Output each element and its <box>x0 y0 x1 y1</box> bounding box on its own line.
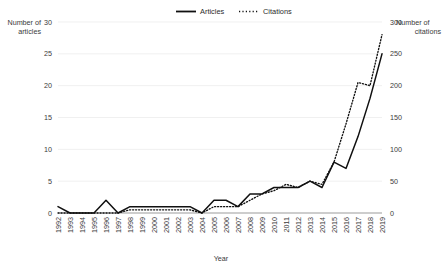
svg-text:2002: 2002 <box>174 217 183 233</box>
svg-text:1992: 1992 <box>54 217 63 233</box>
legend-label-citations: Citations <box>263 7 292 16</box>
svg-text:15: 15 <box>44 113 52 122</box>
svg-text:1996: 1996 <box>102 217 111 233</box>
y-axis-title-line2: articles <box>18 27 41 36</box>
chart-figure: 051015202530 050100150200250300 19921993… <box>0 0 443 270</box>
svg-text:2012: 2012 <box>294 217 303 233</box>
svg-text:20: 20 <box>44 81 52 90</box>
svg-text:1994: 1994 <box>78 217 87 233</box>
x-axis-title: Year <box>214 254 229 263</box>
gridlines <box>58 22 382 213</box>
svg-text:1993: 1993 <box>66 217 75 233</box>
articles-citations-line-chart: 051015202530 050100150200250300 19921993… <box>0 0 443 270</box>
svg-text:1999: 1999 <box>138 217 147 233</box>
svg-text:200: 200 <box>390 81 402 90</box>
svg-text:2017: 2017 <box>354 217 363 233</box>
svg-text:50: 50 <box>390 177 398 186</box>
svg-text:1998: 1998 <box>126 217 135 233</box>
legend-label-articles: Articles <box>200 7 225 16</box>
svg-text:1995: 1995 <box>90 217 99 233</box>
svg-text:30: 30 <box>44 18 52 27</box>
svg-text:2003: 2003 <box>186 217 195 233</box>
svg-text:1997: 1997 <box>114 217 123 233</box>
svg-text:2005: 2005 <box>210 217 219 233</box>
svg-text:2007: 2007 <box>234 217 243 233</box>
svg-text:2014: 2014 <box>318 217 327 233</box>
svg-text:0: 0 <box>48 209 52 218</box>
svg-text:2018: 2018 <box>366 217 375 233</box>
y-axis-tick-labels: 051015202530 <box>44 18 52 218</box>
svg-text:2000: 2000 <box>150 217 159 233</box>
svg-text:100: 100 <box>390 145 402 154</box>
svg-text:25: 25 <box>44 49 52 58</box>
svg-text:250: 250 <box>390 49 402 58</box>
y-axis-title-line1: Number of <box>7 18 41 27</box>
svg-text:2019: 2019 <box>378 217 387 233</box>
x-axis-tick-labels: 1992199319941995199619971998199920002001… <box>54 217 387 233</box>
svg-text:10: 10 <box>44 145 52 154</box>
svg-text:2015: 2015 <box>330 217 339 233</box>
chart-legend: Articles Citations <box>176 7 292 16</box>
y2-axis-tick-labels: 050100150200250300 <box>390 18 402 218</box>
svg-text:2013: 2013 <box>306 217 315 233</box>
svg-text:2006: 2006 <box>222 217 231 233</box>
svg-text:2008: 2008 <box>246 217 255 233</box>
svg-text:2016: 2016 <box>342 217 351 233</box>
svg-text:2001: 2001 <box>162 217 171 233</box>
series-line-articles <box>58 54 382 213</box>
y2-axis-title-line1: Number of <box>396 18 430 27</box>
series-line-citations <box>58 35 382 213</box>
svg-text:0: 0 <box>390 209 394 218</box>
svg-text:5: 5 <box>48 177 52 186</box>
svg-text:2009: 2009 <box>258 217 267 233</box>
svg-text:2004: 2004 <box>198 217 207 233</box>
svg-text:150: 150 <box>390 113 402 122</box>
y2-axis-title-line2: citations <box>415 27 442 36</box>
svg-text:2011: 2011 <box>282 217 291 232</box>
svg-text:2010: 2010 <box>270 217 279 233</box>
